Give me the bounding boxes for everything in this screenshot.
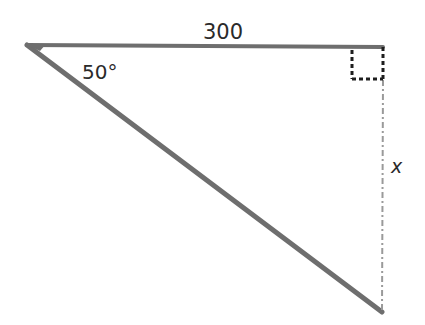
- right-side-line: [382, 80, 383, 312]
- top-side-label: 300: [203, 22, 243, 43]
- top-side-line: [27, 45, 383, 47]
- hypotenuse-line: [27, 45, 382, 312]
- right-angle-marker: [352, 47, 383, 79]
- angle-label: 50°: [82, 62, 117, 82]
- diagram-canvas: 300 50° x: [0, 0, 425, 325]
- triangle-figure: [0, 0, 425, 325]
- right-side-label: x: [391, 157, 402, 176]
